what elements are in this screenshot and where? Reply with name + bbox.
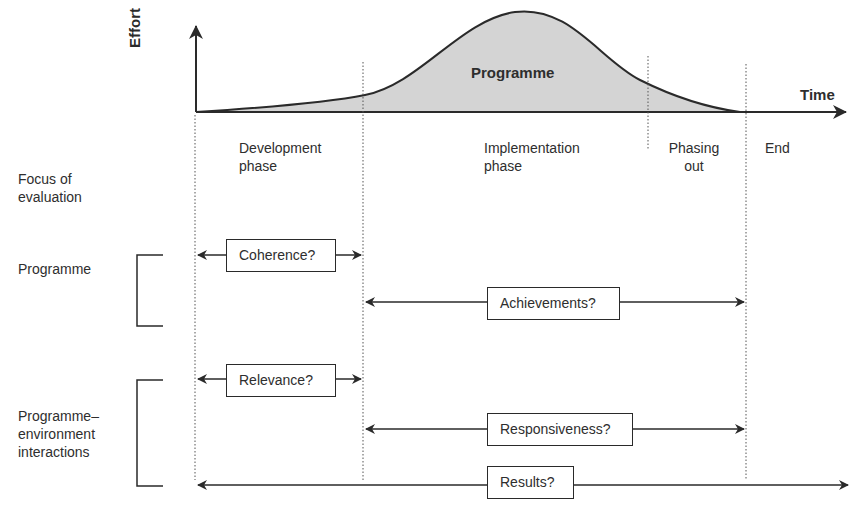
coherence-box: Coherence? bbox=[226, 239, 336, 272]
programme-bracket bbox=[137, 255, 163, 326]
focus-group-programme: Programme bbox=[18, 260, 91, 278]
interactions-bracket bbox=[137, 380, 163, 486]
focus-group-interactions: Programme– environment interactions bbox=[18, 407, 99, 461]
y-axis-label: Effort bbox=[126, 8, 143, 48]
achievements-box: Achievements? bbox=[487, 287, 620, 320]
relevance-box: Relevance? bbox=[226, 364, 336, 397]
curve-label: Programme bbox=[471, 64, 554, 82]
results-box: Results? bbox=[487, 466, 574, 499]
x-axis-label: Time bbox=[800, 86, 835, 104]
responsiveness-box: Responsiveness? bbox=[487, 413, 633, 446]
diagram-canvas bbox=[0, 0, 862, 517]
phase-implementation: Implementation phase bbox=[484, 139, 580, 175]
focus-heading: Focus of evaluation bbox=[18, 170, 82, 206]
phase-development: Development phase bbox=[239, 139, 322, 175]
phase-phasing-out: Phasing out bbox=[666, 139, 722, 175]
phase-end: End bbox=[765, 139, 790, 157]
programme-effort-curve bbox=[196, 11, 740, 112]
